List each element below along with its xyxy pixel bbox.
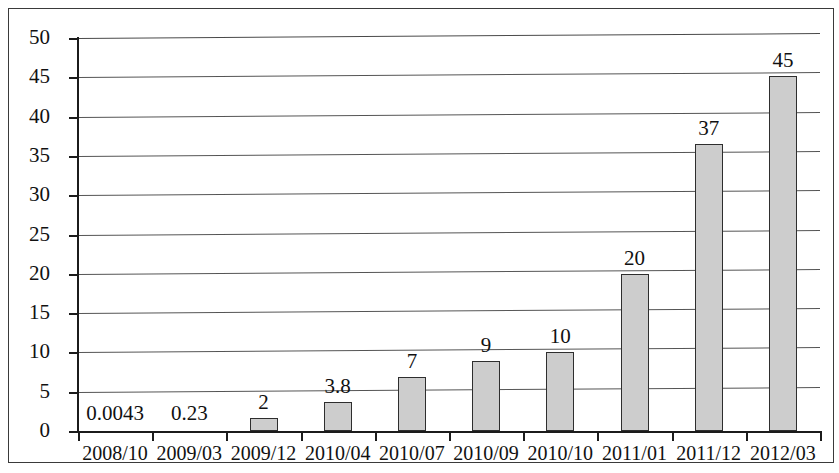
x-tick-mark-3 <box>301 431 303 441</box>
y-axis-line <box>77 37 79 432</box>
y-tick-label-40: 40 <box>0 106 64 127</box>
x-tick-mark-0 <box>78 431 80 441</box>
bar-2012-03 <box>769 76 797 431</box>
x-tick-mark-5 <box>449 431 451 441</box>
y-tick-label-35: 35 <box>0 145 64 166</box>
bar-value-label-2011-01: 20 <box>580 248 690 269</box>
bar-2010-10 <box>546 352 574 431</box>
y-tick-label-0: 0 <box>0 420 64 441</box>
bar-2011-12 <box>695 144 723 431</box>
y-tick-label-15: 15 <box>0 302 64 323</box>
x-tick-mark-4 <box>375 431 377 441</box>
chart-figure: 05101520253035404550 0.00430.2323.879102… <box>0 0 839 473</box>
y-tick-label-20: 20 <box>0 263 64 284</box>
bar-value-label-2010-10: 10 <box>505 326 615 347</box>
x-tick-mark-10 <box>820 431 822 441</box>
bar-2011-01 <box>621 274 649 431</box>
x-tick-mark-1 <box>152 431 154 441</box>
y-tick-label-25: 25 <box>0 224 64 245</box>
x-tick-mark-8 <box>672 431 674 441</box>
bar-value-label-2012-03: 45 <box>728 50 838 71</box>
bar-2010-07 <box>398 377 426 431</box>
x-tick-mark-2 <box>226 431 228 441</box>
y-tick-label-5: 5 <box>0 381 64 402</box>
y-axis-tick-labels: 05101520253035404550 <box>0 0 64 473</box>
y-tick-label-45: 45 <box>0 66 64 87</box>
bar-2010-09 <box>472 361 500 431</box>
y-tick-label-10: 10 <box>0 341 64 362</box>
bar-value-label-2011-12: 37 <box>654 118 764 139</box>
y-tick-label-50: 50 <box>0 27 64 48</box>
bar-2009-12 <box>250 418 278 431</box>
x-tick-mark-7 <box>597 431 599 441</box>
x-tick-mark-9 <box>746 431 748 441</box>
y-tick-label-30: 30 <box>0 184 64 205</box>
bar-value-label-2010-04: 3.8 <box>283 376 393 397</box>
bar-2010-04 <box>324 402 352 431</box>
x-tick-mark-6 <box>523 431 525 441</box>
x-category-label-2012-03: 2012/03 <box>733 443 833 463</box>
